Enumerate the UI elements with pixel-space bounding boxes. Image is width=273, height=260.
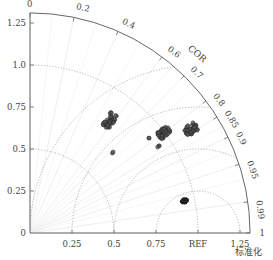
corr-tick-label: 0.6 — [166, 44, 183, 60]
chart-canvas: 00.250.50.751.01.250.250.50.75REF1.25标准化… — [0, 0, 273, 260]
corr-ray-minor — [30, 66, 173, 233]
y-tick-label: 1.0 — [12, 60, 26, 70]
corr-ray — [30, 17, 74, 233]
corr-tick-label: 0.95 — [245, 159, 260, 180]
corr-tick-label: 0.4 — [121, 16, 137, 31]
corr-ray — [30, 101, 206, 233]
corr-tick-label: 0 — [27, 0, 32, 9]
data-point-cluster-g — [182, 199, 186, 203]
corr-ray — [30, 164, 239, 233]
corr-tick — [235, 164, 239, 165]
corr-ray-minor — [30, 87, 195, 233]
corr-tick-label: 0.85 — [223, 108, 241, 129]
data-point-point-e — [147, 136, 151, 140]
corr-tick — [181, 76, 184, 79]
y-tick-label: 0.5 — [12, 144, 26, 154]
corr-tick-label: 0.8 — [211, 91, 227, 108]
std-arc — [30, 65, 198, 233]
corr-tick — [224, 137, 228, 139]
corr-ray-minor — [30, 126, 223, 233]
corr-tick-label: 0.99 — [254, 200, 267, 220]
corr-ray — [30, 31, 118, 233]
corr-tick — [213, 117, 217, 119]
corr-ray — [30, 57, 162, 233]
data-point-cluster-c — [185, 125, 189, 129]
y-tick-label: 0.25 — [7, 186, 26, 196]
rms-arc — [156, 191, 240, 233]
corr-tick-label: 0.2 — [75, 1, 90, 14]
corr-tick — [160, 57, 163, 60]
data-point-cluster-a — [114, 114, 118, 118]
data-point-cluster-c — [186, 132, 190, 136]
x-tick-label: 0.5 — [107, 239, 121, 249]
corr-ray-minor — [30, 179, 243, 233]
data-point-cluster-c — [193, 126, 197, 130]
corr-tick — [116, 31, 118, 35]
data-point-cluster-a — [103, 120, 107, 124]
y-tick-label: 0.75 — [7, 102, 26, 112]
y-tick-label: 1.25 — [7, 18, 26, 28]
data-point-cluster-a — [106, 123, 110, 127]
x-tick-label: 0.75 — [147, 239, 166, 249]
data-point-cluster-a — [112, 121, 116, 125]
y-tick-label: 0 — [21, 228, 26, 238]
data-point-cluster-b — [162, 127, 166, 131]
data-point-cluster-a — [108, 115, 112, 119]
outer-arc — [30, 13, 250, 233]
x-tick-label: REF — [189, 239, 208, 249]
corr-tick — [73, 17, 74, 21]
x-tick-label: 0.25 — [63, 239, 82, 249]
corr-tick-label: 0.7 — [189, 64, 206, 81]
data-point-cluster-c — [185, 128, 189, 132]
data-point-cluster-b — [157, 131, 161, 135]
taylor-diagram: 00.250.50.751.01.250.250.50.75REF1.25标准化… — [0, 0, 273, 260]
corr-ray-minor — [30, 23, 96, 233]
data-point-cluster-c — [191, 121, 195, 125]
corr-axis-label: COR — [186, 43, 209, 64]
x-axis-label: 标准化 — [235, 246, 262, 257]
data-point-point-f — [156, 145, 160, 149]
data-point-cluster-a — [110, 111, 114, 115]
corr-tick-label: 0.9 — [234, 130, 249, 147]
corr-tick — [203, 101, 206, 104]
data-point-point-d — [111, 150, 115, 154]
data-point-cluster-b — [167, 128, 171, 132]
corr-tick — [244, 202, 248, 203]
corr-tick-label: 1 — [259, 228, 264, 238]
